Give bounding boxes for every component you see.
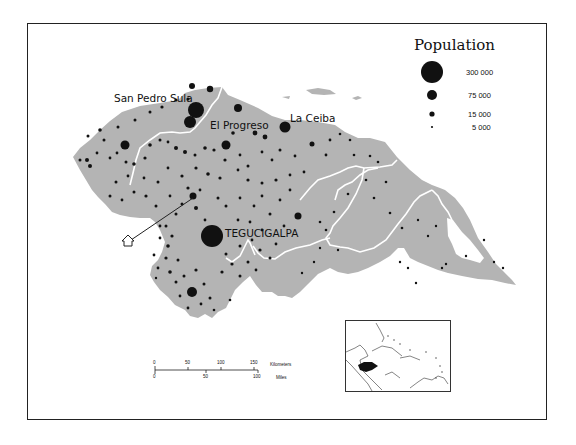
scale-bar: [155, 366, 258, 374]
scale-km-50: 50: [185, 360, 190, 365]
bay-islands: [306, 88, 336, 95]
legend-label-5000: 5 000: [472, 123, 491, 132]
legend-symbols: [421, 61, 443, 128]
scale-km-0: 0: [153, 360, 156, 365]
label-el-progreso: El Progreso: [210, 119, 269, 131]
scale-mi-50: 50: [203, 374, 208, 379]
scale-mi-100: 100: [253, 374, 261, 379]
scale-km-150: 150: [250, 360, 258, 365]
dot-san-pedro-sula: [188, 102, 204, 118]
scale-km-100: 100: [217, 360, 225, 365]
scale-km-label: Kilometers: [270, 362, 291, 367]
label-la-ceiba: La Ceiba: [290, 112, 335, 124]
dot-tegucigalpa: [201, 225, 223, 247]
dot-la-ceiba: [280, 122, 291, 133]
legend-label-300000: 300 000: [466, 68, 493, 77]
label-tegucigalpa: TEGUCIGALPA: [225, 227, 298, 239]
house-marker-icon: [122, 235, 134, 246]
legend-label-75000: 75 000: [468, 91, 491, 100]
honduras-map: [0, 0, 576, 445]
scale-mi-0: 0: [153, 374, 156, 379]
legend-title: Population: [414, 36, 495, 54]
label-san-pedro-sula: San Pedro Sula: [114, 92, 193, 104]
legend-label-15000: 15 000: [468, 110, 491, 119]
inset-locator-map: [345, 320, 451, 392]
scale-mi-label: Miles: [276, 375, 287, 380]
